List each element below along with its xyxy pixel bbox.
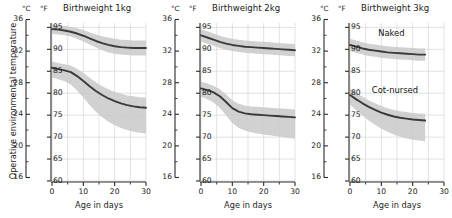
figure-root: Operative environmental temperature Birt…	[0, 0, 452, 218]
x-tick-label: 20	[403, 187, 423, 196]
celsius-tick-label: 28	[304, 78, 321, 87]
x-tick-label: 10	[371, 187, 391, 196]
annotation-cot-nursed: Cot-nursed	[372, 85, 418, 95]
x-tick-label: 30	[434, 187, 452, 196]
fahrenheit-tick-label: 95	[351, 22, 361, 31]
celsius-tick-label: 20	[304, 141, 321, 150]
celsius-tick-label: 16	[304, 172, 321, 181]
fahrenheit-tick-label: 75	[351, 110, 361, 119]
x-tick-label: 0	[340, 187, 360, 196]
fahrenheit-tick-label: 65	[351, 154, 361, 163]
celsius-tick-label: 32	[304, 46, 321, 55]
celsius-tick-label: 36	[304, 14, 321, 23]
x-axis-title: Age in days	[340, 200, 452, 210]
fahrenheit-tick-label: 80	[351, 88, 361, 97]
fahrenheit-tick-label: 70	[351, 132, 361, 141]
fahrenheit-tick-label: 90	[351, 44, 361, 53]
celsius-tick-label: 24	[304, 109, 321, 118]
annotation-naked: Naked	[378, 28, 404, 38]
fahrenheit-tick-label: 60	[351, 176, 361, 185]
fahrenheit-tick-label: 85	[351, 66, 361, 75]
